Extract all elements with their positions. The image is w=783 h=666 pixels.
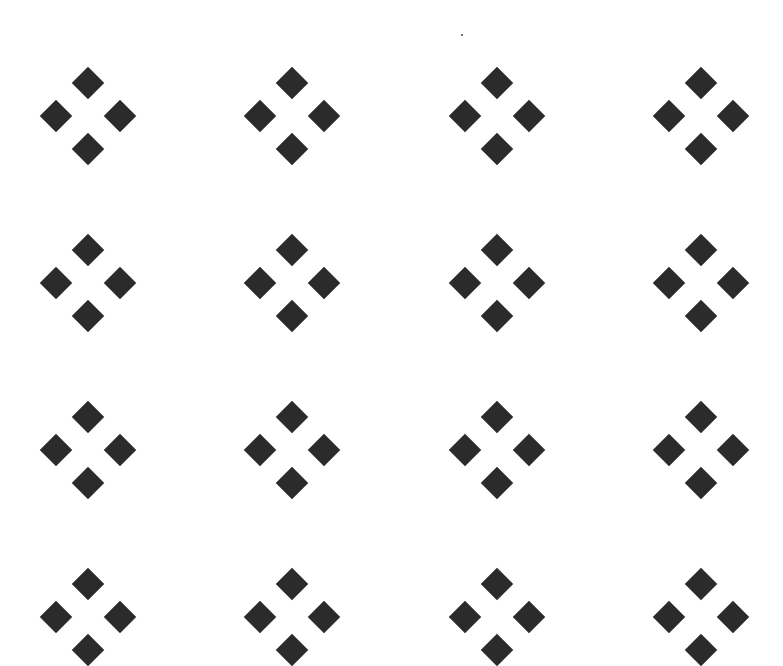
diamond-bottom-icon [72, 300, 105, 333]
diamond-right-icon [717, 434, 750, 467]
diamond-left-icon [40, 601, 73, 634]
speck-artifact [461, 34, 463, 36]
diamond-left-icon [40, 267, 73, 300]
diamond-right-icon [104, 100, 137, 133]
diamond-top-icon [276, 568, 309, 601]
diamond-top-icon [72, 234, 105, 267]
diamond-right-icon [104, 601, 137, 634]
diamond-bottom-icon [481, 467, 514, 500]
diamond-top-icon [276, 67, 309, 100]
diamond-bottom-icon [685, 634, 718, 666]
diamond-bottom-icon [72, 634, 105, 666]
diamond-bottom-icon [276, 634, 309, 666]
diamond-right-icon [717, 100, 750, 133]
diamond-right-icon [717, 267, 750, 300]
diamond-right-icon [513, 434, 546, 467]
diamond-right-icon [104, 267, 137, 300]
diamond-right-icon [513, 267, 546, 300]
diamond-bottom-icon [481, 300, 514, 333]
diamond-right-icon [308, 434, 341, 467]
diamond-right-icon [513, 601, 546, 634]
diamond-bottom-icon [481, 634, 514, 666]
diamond-left-icon [653, 100, 686, 133]
diamond-bottom-icon [72, 133, 105, 166]
diamond-left-icon [244, 100, 277, 133]
diamond-top-icon [276, 234, 309, 267]
diamond-bottom-icon [276, 300, 309, 333]
diamond-right-icon [308, 267, 341, 300]
diamond-right-icon [308, 100, 341, 133]
diamond-bottom-icon [276, 133, 309, 166]
diamond-top-icon [481, 67, 514, 100]
diamond-top-icon [481, 234, 514, 267]
diamond-left-icon [449, 601, 482, 634]
diamond-right-icon [308, 601, 341, 634]
diamond-left-icon [244, 434, 277, 467]
diamond-bottom-icon [685, 300, 718, 333]
diamond-left-icon [40, 100, 73, 133]
diamond-left-icon [40, 434, 73, 467]
diamond-left-icon [653, 267, 686, 300]
diamond-left-icon [244, 601, 277, 634]
diamond-left-icon [449, 434, 482, 467]
diamond-top-icon [72, 401, 105, 434]
diamond-bottom-icon [481, 133, 514, 166]
diamond-right-icon [717, 601, 750, 634]
diamond-top-icon [685, 234, 718, 267]
diamond-top-icon [72, 568, 105, 601]
diamond-left-icon [244, 267, 277, 300]
diamond-left-icon [449, 100, 482, 133]
diamond-right-icon [513, 100, 546, 133]
diamond-left-icon [449, 267, 482, 300]
diamond-left-icon [653, 601, 686, 634]
diamond-bottom-icon [685, 133, 718, 166]
diamond-top-icon [685, 401, 718, 434]
diamond-top-icon [685, 67, 718, 100]
diamond-top-icon [276, 401, 309, 434]
diamond-right-icon [104, 434, 137, 467]
diamond-bottom-icon [276, 467, 309, 500]
diamond-top-icon [481, 568, 514, 601]
diamond-left-icon [653, 434, 686, 467]
diamond-top-icon [481, 401, 514, 434]
diamond-bottom-icon [685, 467, 718, 500]
diamond-top-icon [685, 568, 718, 601]
diamond-bottom-icon [72, 467, 105, 500]
diamond-top-icon [72, 67, 105, 100]
